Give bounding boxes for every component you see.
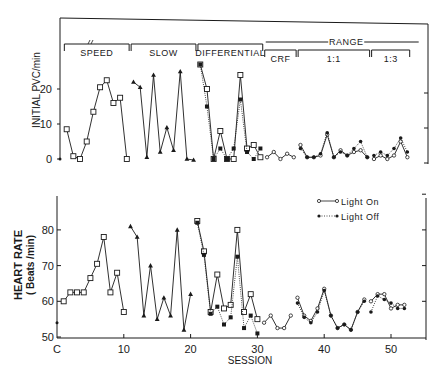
legend-light-on: Light On bbox=[341, 197, 379, 207]
bottom-y-ticks: 50607080 bbox=[42, 224, 61, 343]
series-speed bbox=[64, 78, 129, 162]
x-tick-label: 40 bbox=[318, 343, 330, 355]
x-tick-label: 10 bbox=[118, 343, 130, 355]
bottom-right-ticks bbox=[422, 194, 426, 301]
legend: Light On Light Off bbox=[317, 197, 379, 222]
x-axis-label: SESSION bbox=[228, 355, 272, 366]
x-tick-label: 30 bbox=[251, 343, 263, 355]
light-on-marker-icon bbox=[317, 199, 320, 202]
legend-light-off: Light Off bbox=[341, 212, 379, 222]
x-tick-label: C bbox=[53, 343, 61, 355]
phase-label: CRF bbox=[270, 54, 290, 64]
top-y-tick-label: 0 bbox=[46, 153, 52, 165]
series-speed bbox=[61, 235, 126, 315]
top-y-ticks: 01020 bbox=[40, 83, 60, 165]
x-tick-label: 20 bbox=[184, 343, 196, 355]
x-ticks: C1020304050 bbox=[53, 334, 397, 355]
pvc-chart: 01020 INITIAL PVC/min SPEEDSLOWDIFFERENT… bbox=[31, 18, 428, 165]
bottom-y-tick-label: 80 bbox=[42, 224, 54, 236]
top-right-ticks bbox=[424, 93, 428, 163]
bottom-y-axis-units: ( Beats /min) bbox=[25, 235, 36, 295]
phase-label: 1:3 bbox=[384, 54, 398, 64]
bottom-y-tick-label: 50 bbox=[42, 331, 54, 343]
pvc-plot-area bbox=[59, 62, 410, 162]
range-group-label: RANGE bbox=[266, 37, 419, 47]
range-label: RANGE bbox=[329, 37, 364, 47]
bottom-y-axis-label: HEART RATE bbox=[12, 230, 24, 300]
heart-rate-chart: 50607080 C1020304050 HEART RATE ( Beats … bbox=[12, 194, 426, 366]
series-light-off bbox=[195, 221, 406, 336]
series-control bbox=[59, 158, 62, 161]
series-control bbox=[56, 321, 59, 324]
heart-rate-plot-area bbox=[56, 218, 407, 335]
series-light-on bbox=[195, 218, 406, 331]
phase-label: DIFFERENTIAL bbox=[195, 48, 265, 58]
top-y-axis-label: INITIAL PVC/min bbox=[31, 52, 42, 128]
series-slow bbox=[131, 69, 196, 162]
series-light-on bbox=[198, 62, 409, 162]
figure: 01020 INITIAL PVC/min SPEEDSLOWDIFFERENT… bbox=[0, 0, 447, 383]
light-off-marker-icon bbox=[317, 214, 320, 217]
series-slow bbox=[128, 224, 193, 332]
phase-label: SPEED bbox=[80, 48, 113, 58]
top-frame-top bbox=[60, 18, 428, 24]
phase-label: 1:1 bbox=[327, 54, 341, 64]
phase-label: SLOW bbox=[149, 48, 178, 58]
bottom-y-tick-label: 70 bbox=[42, 260, 54, 272]
bottom-y-tick-label: 60 bbox=[42, 295, 54, 307]
series-light-off bbox=[198, 63, 409, 162]
x-tick-label: 50 bbox=[385, 343, 397, 355]
